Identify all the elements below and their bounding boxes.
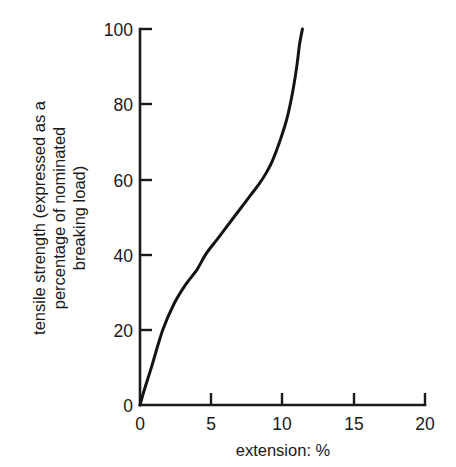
y-tick-label-100: 100 (104, 20, 133, 40)
y-axis-title-line-1: tensile strength (expressed as a (30, 100, 48, 335)
y-tick-label-60: 60 (114, 171, 134, 191)
y-axis-title-group: tensile strength (expressed as a percent… (30, 100, 88, 335)
chart-figure: 100 80 60 40 20 0 0 5 10 15 20 extension… (0, 0, 456, 467)
y-tick-label-0: 0 (123, 396, 133, 416)
x-tick-labels: 0 5 10 15 20 (135, 414, 435, 434)
x-tick-label-15: 15 (344, 414, 363, 434)
y-ticks-group (140, 104, 152, 330)
y-tick-label-80: 80 (114, 95, 134, 115)
y-tick-labels: 100 80 60 40 20 0 (104, 20, 133, 416)
x-tick-label-20: 20 (415, 414, 435, 434)
x-tick-label-10: 10 (272, 414, 292, 434)
x-axis-title: extension: % (236, 441, 331, 459)
y-tick-label-20: 20 (114, 321, 134, 341)
y-axis-title-line-2: percentage of nominated (50, 127, 68, 310)
x-tick-label-5: 5 (206, 414, 216, 434)
axes-group (140, 29, 425, 405)
y-tick-label-40: 40 (114, 246, 134, 266)
x-ticks-group (211, 393, 354, 405)
x-tick-label-0: 0 (135, 414, 145, 434)
tensile-strength-curve (140, 29, 302, 405)
y-axis-title-line-3: breaking load) (70, 166, 88, 271)
tensile-strength-extension-chart: 100 80 60 40 20 0 0 5 10 15 20 extension… (0, 0, 456, 467)
